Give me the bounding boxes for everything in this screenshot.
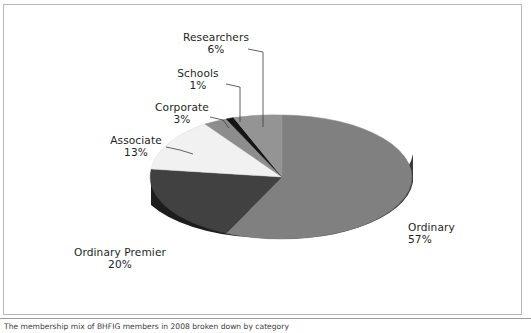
pie-label-corporate-value: 3% <box>132 113 232 125</box>
pie-label-ordinary: Ordinary 57% <box>408 221 490 246</box>
pie-label-ordinary-name: Ordinary <box>408 221 490 233</box>
chart-frame: Researchers 6% Schools 1% Corporate 3% A… <box>3 4 522 315</box>
chart-page: Researchers 6% Schools 1% Corporate 3% A… <box>0 0 531 333</box>
pie-label-researchers-value: 6% <box>162 43 270 55</box>
pie-label-associate: Associate 13% <box>88 134 184 159</box>
pie-label-researchers-name: Researchers <box>162 31 270 43</box>
pie-label-ordinary-value: 57% <box>408 233 490 245</box>
pie-label-corporate: Corporate 3% <box>132 101 232 126</box>
caption-divider <box>0 318 531 319</box>
pie-label-ordinary-premier-value: 20% <box>52 258 188 270</box>
pie-label-schools: Schools 1% <box>152 67 244 92</box>
pie-label-associate-value: 13% <box>88 146 184 158</box>
pie-label-schools-name: Schools <box>152 67 244 79</box>
pie-label-associate-name: Associate <box>88 134 184 146</box>
pie-top-face <box>150 115 412 239</box>
pie-label-ordinary-premier-name: Ordinary Premier <box>52 246 188 258</box>
pie-label-researchers: Researchers 6% <box>162 31 270 56</box>
figure-caption: The membership mix of BHFIG members in 2… <box>4 322 524 333</box>
pie-label-ordinary-premier: Ordinary Premier 20% <box>52 246 188 271</box>
pie-label-corporate-name: Corporate <box>132 101 232 113</box>
pie-label-schools-value: 1% <box>152 79 244 91</box>
